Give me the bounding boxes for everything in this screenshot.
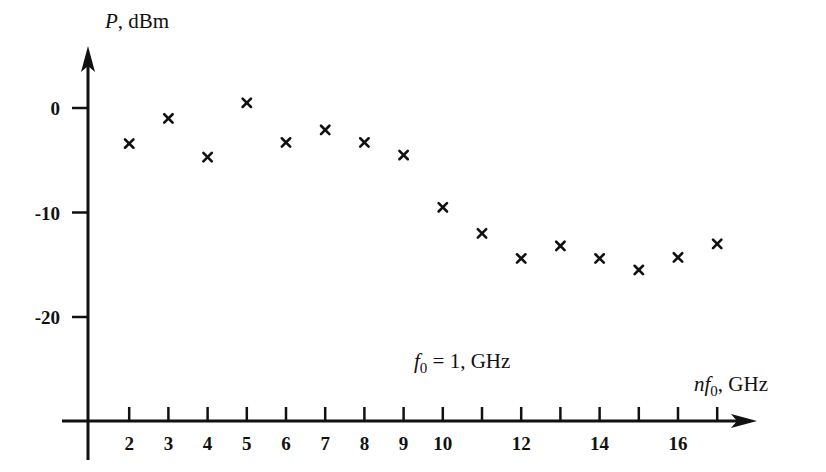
x-tick-label: 16 — [669, 433, 688, 454]
x-marker-icon — [713, 240, 721, 248]
x-marker-icon — [595, 254, 603, 262]
x-marker-icon — [635, 266, 643, 274]
y-tick-label: -20 — [35, 307, 60, 328]
x-tick-label: 10 — [433, 433, 452, 454]
data-points — [125, 99, 721, 275]
y-axis-title: P, dBm — [104, 9, 169, 33]
x-marker-icon — [203, 153, 211, 161]
x-tick-label: 6 — [281, 433, 291, 454]
x-marker-icon — [321, 126, 329, 134]
chart: 0-10-20 2345678910121416 P, dBm nf0, GHz… — [0, 0, 826, 472]
x-marker-icon — [517, 254, 525, 262]
x-axis — [62, 414, 757, 428]
x-tick-label: 8 — [360, 433, 370, 454]
x-marker-icon — [674, 253, 682, 261]
x-tick-label: 2 — [124, 433, 134, 454]
x-tick-label: 5 — [242, 433, 252, 454]
x-tick-label: 4 — [203, 433, 213, 454]
x-tick-label: 9 — [399, 433, 409, 454]
x-marker-icon — [164, 114, 172, 122]
x-tick-label: 14 — [590, 433, 610, 454]
x-axis-title: nf0, GHz — [694, 372, 768, 399]
x-marker-icon — [439, 203, 447, 211]
x-marker-icon — [360, 138, 368, 146]
x-marker-icon — [399, 151, 407, 159]
frequency-annotation: f0 = 1, GHz — [414, 349, 510, 376]
x-marker-icon — [243, 99, 251, 107]
y-ticks: 0-10-20 — [35, 98, 88, 328]
x-tick-label: 3 — [164, 433, 174, 454]
x-ticks: 2345678910121416 — [124, 407, 717, 454]
x-marker-icon — [125, 139, 133, 147]
x-tick-label: 7 — [320, 433, 330, 454]
y-tick-label: 0 — [51, 98, 61, 119]
x-tick-label: 12 — [512, 433, 531, 454]
x-marker-icon — [478, 229, 486, 237]
y-tick-label: -10 — [35, 203, 60, 224]
x-marker-icon — [556, 242, 564, 250]
x-marker-icon — [282, 138, 290, 146]
